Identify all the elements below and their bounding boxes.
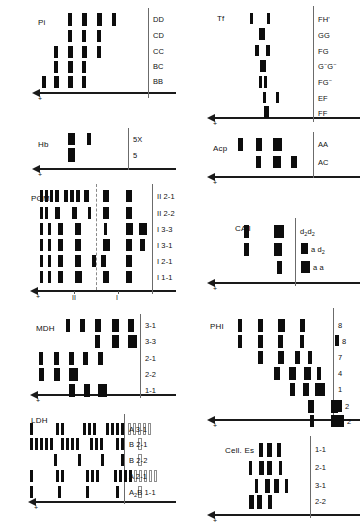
band <box>259 28 265 40</box>
band <box>103 239 110 251</box>
band <box>82 46 87 58</box>
band <box>66 319 70 332</box>
axis-tick-label-pgm-0: II <box>72 294 76 301</box>
band <box>45 438 48 450</box>
band <box>255 45 259 56</box>
row-label-pgm-0: II 2-1 <box>157 193 175 201</box>
axis-plus-celles: + <box>213 517 217 524</box>
band <box>92 255 96 267</box>
label-divider-celles <box>310 436 311 518</box>
band <box>98 384 107 397</box>
band <box>119 470 122 482</box>
axis-line-celles <box>215 514 360 516</box>
band <box>273 138 282 151</box>
axis-plus-pi: + <box>38 95 42 102</box>
panel-hb: Hb+5X5 <box>30 124 178 174</box>
band <box>82 61 86 73</box>
row-label-pi-4: BB <box>153 78 163 86</box>
panel-title-hb: Hb <box>38 140 49 149</box>
band <box>274 225 284 238</box>
row-label-phi-3: 4 <box>338 370 342 378</box>
band <box>75 255 81 267</box>
band <box>40 223 43 235</box>
row-label-phi-5: 2 <box>345 403 349 411</box>
legend-band <box>335 335 339 346</box>
band <box>58 239 63 251</box>
band <box>244 225 249 238</box>
band <box>95 438 98 450</box>
band <box>291 156 297 168</box>
band <box>75 271 82 283</box>
row-label-pgm-3: I 3-1 <box>157 242 173 250</box>
band <box>90 438 93 450</box>
band <box>266 45 270 56</box>
row-label-mdh-0: 3-1 <box>145 322 156 330</box>
band <box>238 138 243 151</box>
band <box>140 239 145 251</box>
row-label-phi-1: 8 <box>342 338 346 346</box>
label-divider-ca1 <box>295 218 296 286</box>
band <box>315 383 325 396</box>
row-label-pgm-5: I 1-1 <box>157 274 173 282</box>
band <box>265 479 270 493</box>
row-label-phi-6: 2 <box>347 418 351 426</box>
band <box>128 335 137 348</box>
label-divider-ldh <box>124 414 125 504</box>
band <box>112 319 119 332</box>
row-label-acp-0: AA <box>318 141 328 149</box>
row-label-phi-4: 1 <box>338 386 342 394</box>
band <box>317 367 321 380</box>
band <box>95 319 101 332</box>
axis-plus-pgm: + <box>36 293 40 300</box>
band <box>276 92 279 103</box>
band <box>308 400 314 413</box>
band <box>40 438 43 450</box>
band <box>61 438 64 450</box>
band <box>68 133 75 145</box>
label-divider-hb <box>128 128 129 170</box>
band <box>40 255 43 267</box>
band <box>112 335 119 348</box>
panel-ldh: LDH+A 3-1B 2-1B 2-2A 2-1A2B 1-1 <box>28 408 178 518</box>
row-label-ldh-0: A 3-1 <box>129 426 147 434</box>
panel-ca1: CA I+d2d2a d2a a <box>205 212 362 290</box>
panel-title-tf: Tf <box>217 14 225 23</box>
panel-mdh: MDH+3-13-32-12-21-1 <box>28 312 178 407</box>
band <box>304 367 311 380</box>
row-label-tf-5: EF <box>318 95 328 103</box>
band <box>249 495 254 509</box>
band <box>82 13 87 26</box>
band <box>61 423 64 435</box>
band <box>86 470 89 482</box>
panel-title-mdh: MDH <box>36 324 55 333</box>
band <box>68 148 75 162</box>
band <box>40 190 43 202</box>
band <box>50 438 53 450</box>
axis-line-pi <box>40 92 176 94</box>
band-outline <box>154 470 157 482</box>
band <box>80 319 85 332</box>
band <box>111 423 114 435</box>
band-outline <box>148 423 151 435</box>
band <box>259 76 262 88</box>
band <box>75 239 81 251</box>
band <box>126 223 133 235</box>
band <box>96 470 99 482</box>
band <box>45 207 48 219</box>
band <box>103 190 109 202</box>
band <box>40 271 43 283</box>
band <box>50 190 53 202</box>
band <box>76 438 79 450</box>
axis-line-acp <box>215 176 360 178</box>
band <box>58 255 63 267</box>
row-label-pi-0: DD <box>153 16 164 24</box>
band <box>88 423 91 435</box>
row-label-ldh-1: B 2-1 <box>129 441 147 449</box>
band <box>268 495 272 509</box>
band <box>30 423 33 435</box>
label-divider-acp <box>313 132 314 178</box>
row-label-hb-1: 5 <box>133 152 137 160</box>
row-label-phi-0: 8 <box>338 322 342 330</box>
band <box>55 190 59 202</box>
band <box>128 319 134 332</box>
